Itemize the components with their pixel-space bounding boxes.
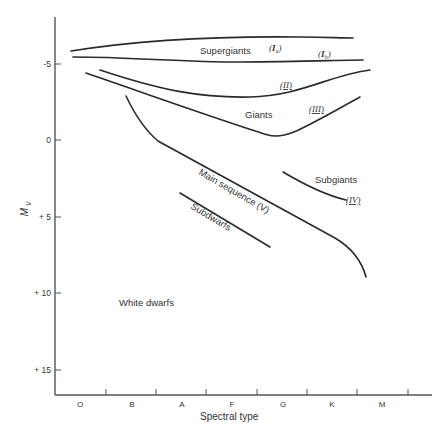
- y-tick-label: -5: [43, 59, 51, 69]
- class-ia-label: (Ia): [269, 43, 281, 54]
- main-sequence-curve: [126, 96, 366, 277]
- x-tick-label: G: [280, 400, 286, 409]
- y-tick-label: 0: [46, 135, 51, 145]
- giants-label: Giants: [245, 109, 273, 120]
- svg-text:V: V: [25, 201, 32, 206]
- white-dwarfs-label: White dwarfs: [119, 297, 174, 308]
- svg-text:(Ib): (Ib): [318, 49, 331, 60]
- hr-diagram: -5 0 + 5 + 10 + 15 M V O B A F G K M Spe…: [0, 0, 437, 437]
- class-iii-label: (III): [309, 104, 324, 114]
- class-ii-label: (II): [280, 80, 292, 90]
- bright-giants-ii-curve: [100, 70, 370, 97]
- supergiants-label: Supergiants: [200, 45, 251, 56]
- x-ticks: O B A F G K M: [77, 389, 408, 409]
- y-tick-label: + 5: [39, 212, 51, 222]
- x-tick-label: B: [129, 400, 134, 409]
- class-ib-label: (Ib): [318, 49, 331, 60]
- x-tick-label: F: [230, 400, 235, 409]
- subdwarfs-label: Subdwarfs: [189, 200, 233, 233]
- x-tick-label: K: [329, 400, 335, 409]
- svg-text:M: M: [19, 207, 30, 216]
- y-axis-label: M V: [19, 201, 32, 216]
- svg-text:(Ia): (Ia): [269, 43, 281, 54]
- x-tick-label: O: [77, 400, 83, 409]
- y-tick-label: + 10: [34, 288, 51, 298]
- y-tick-label: + 15: [34, 365, 51, 375]
- y-ticks: -5 0 + 5 + 10 + 15: [34, 59, 61, 375]
- subgiants-label: Subgiants: [315, 174, 358, 185]
- class-iv-label: (IV): [346, 195, 361, 205]
- x-tick-label: M: [379, 400, 386, 409]
- x-tick-label: A: [179, 400, 185, 409]
- x-axis-label: Spectral type: [200, 411, 259, 422]
